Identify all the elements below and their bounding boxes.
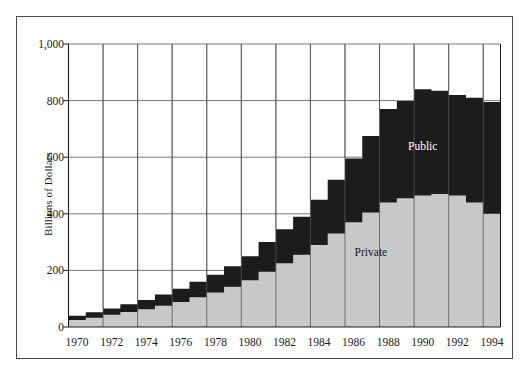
series-label-private: Private xyxy=(355,246,388,258)
series-annotations: PublicPrivate xyxy=(0,0,529,370)
series-label-public: Public xyxy=(408,140,437,152)
chart-screenshot: Billions of Dollars 02004006008001,000 1… xyxy=(0,0,529,370)
